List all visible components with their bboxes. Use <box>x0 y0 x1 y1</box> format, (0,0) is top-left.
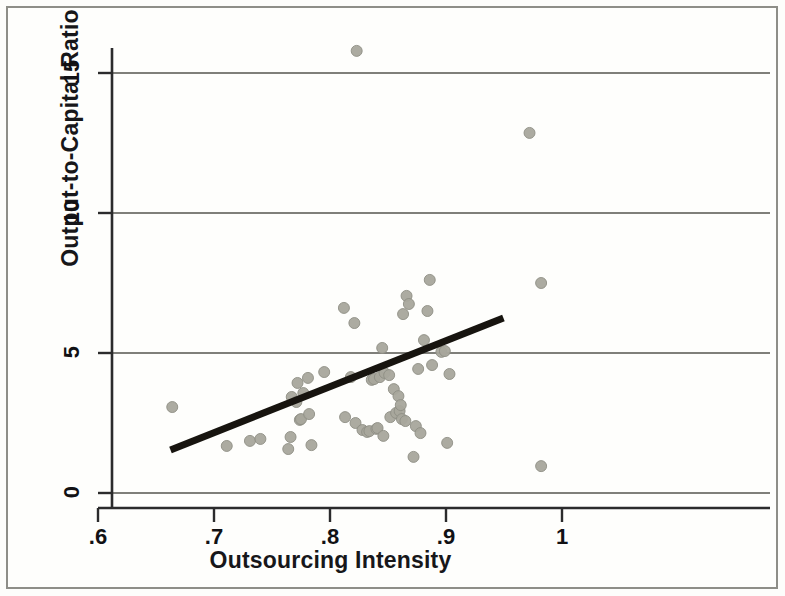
scatter-plot-canvas <box>0 0 785 596</box>
regression-line <box>171 318 504 450</box>
fitted-line <box>171 318 504 450</box>
data-point <box>285 432 296 443</box>
data-point <box>442 437 453 448</box>
data-point <box>384 370 395 381</box>
data-point <box>319 367 330 378</box>
data-point <box>349 318 360 329</box>
data-point <box>255 433 266 444</box>
data-point <box>395 400 406 411</box>
data-point <box>400 416 411 427</box>
data-point <box>221 440 232 451</box>
x-tick-label-0.7: .7 <box>192 524 236 550</box>
y-tick-label-0: 0 <box>59 472 85 512</box>
data-point <box>536 278 547 289</box>
axis-ticks <box>98 73 562 522</box>
gridlines <box>112 73 770 493</box>
data-point <box>351 45 362 56</box>
data-point <box>524 127 535 138</box>
data-point <box>424 274 435 285</box>
x-tick-label-1: 1 <box>540 524 584 550</box>
data-point <box>398 309 409 320</box>
data-point <box>439 346 450 357</box>
data-point <box>283 444 294 455</box>
data-point <box>427 360 438 371</box>
data-point <box>244 435 255 446</box>
figure-container: Output-to-Capital Ratio Outsourcing Inte… <box>0 0 785 596</box>
data-point <box>304 409 315 420</box>
data-point <box>340 412 351 423</box>
data-point <box>377 342 388 353</box>
data-point <box>444 369 455 380</box>
data-point <box>413 363 424 374</box>
y-tick-label-10: 10 <box>59 192 85 232</box>
data-point <box>167 402 178 413</box>
x-tick-label-0.6: .6 <box>76 524 120 550</box>
y-tick-label-15: 15 <box>59 52 85 92</box>
data-point <box>422 306 433 317</box>
data-point <box>536 461 547 472</box>
data-point <box>338 302 349 313</box>
data-point <box>408 451 419 462</box>
x-tick-label-0.8: .8 <box>308 524 352 550</box>
data-point <box>418 335 429 346</box>
data-point <box>292 377 303 388</box>
x-tick-label-0.9: .9 <box>424 524 468 550</box>
data-point <box>302 372 313 383</box>
data-point <box>378 430 389 441</box>
x-axis-title: Outsourcing Intensity <box>98 547 563 574</box>
data-point <box>306 440 317 451</box>
data-points <box>167 45 547 471</box>
data-point <box>403 299 414 310</box>
y-tick-label-5: 5 <box>59 332 85 372</box>
data-point <box>415 428 426 439</box>
